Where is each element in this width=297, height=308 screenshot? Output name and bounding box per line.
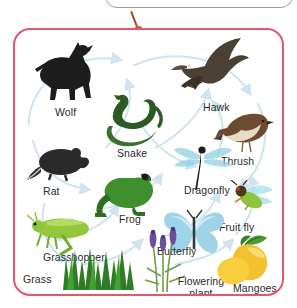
node-label-grass: Grass (23, 274, 52, 286)
wolf-icon (31, 42, 105, 106)
frog-icon (95, 170, 157, 218)
node-label-snake: Snake (117, 148, 147, 160)
node-label-rat: Rat (43, 186, 60, 198)
rat-icon (27, 144, 93, 188)
node-label-dragonfly: Dragonfly (184, 185, 230, 197)
hawk-icon (165, 36, 249, 106)
node-label-mangoes: Mangoes (233, 283, 277, 295)
food-web-panel: Wolf Hawk Snake Thrush (13, 28, 284, 296)
node-label-frog: Frog (119, 214, 141, 226)
snake-icon (103, 92, 165, 154)
grass-icon (59, 248, 137, 290)
node-label-wolf: Wolf (55, 107, 76, 119)
callout-box (105, 0, 293, 8)
fruit-fly-icon (227, 180, 277, 222)
